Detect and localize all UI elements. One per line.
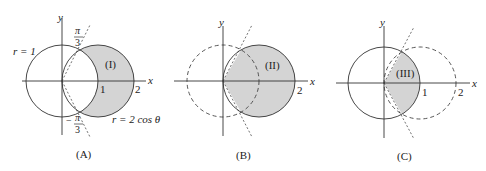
panel-b: x y 2 (II) (B) [174,16,315,162]
y-axis-label: y [57,11,63,23]
x-axis-label: x [147,74,153,86]
panel-caption: (B) [236,149,251,162]
region-label: (II) [265,59,280,72]
panel-caption: (A) [76,148,92,161]
panel-caption: (C) [397,150,412,163]
tick-2: 2 [458,86,464,98]
y-axis-label: y [379,16,385,28]
angle-bottom-sign: − [66,115,72,126]
panel-c: x y 1 2 (III) (C) [336,16,477,163]
unit-circle-label: r = 1 [13,45,36,57]
tick-1: 1 [422,86,428,98]
cos-circle-label: r = 2 cos θ [112,113,161,125]
y-axis-label: y [218,16,224,28]
region-label: (III) [396,67,415,80]
polar-regions-diagram: x y 1 2 (I) r = 1 r = 2 cos θ π 3 − π 3 … [0,0,486,171]
angle-bottom-den: 3 [75,124,80,135]
tick-1: 1 [100,83,106,95]
panel-a: x y 1 2 (I) r = 1 r = 2 cos θ π 3 − π 3 … [13,11,161,161]
angle-top-den: 3 [75,37,80,48]
tick-2: 2 [135,83,141,95]
region-label: (I) [105,58,116,71]
angle-top-num: π [75,25,81,36]
tick-2: 2 [297,84,303,96]
x-axis-label: x [471,77,477,89]
x-axis-label: x [309,75,315,87]
